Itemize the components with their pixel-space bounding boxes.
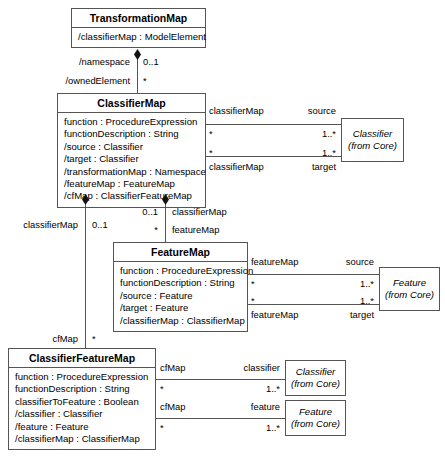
class-feature-core-bottom[interactable]: Feature (from Core) <box>285 400 346 436</box>
class-origin-feature-core-mid: (from Core) <box>385 289 434 301</box>
assoc-label-fm-target-mult-far: 1..* <box>308 295 374 306</box>
assoc-label-ownedelement-role: /ownedElement <box>40 75 130 86</box>
class-name-feature-core-bottom: Feature <box>299 406 332 418</box>
class-origin-classifier-core-bottom: (from Core) <box>291 378 340 390</box>
attribute-row: /classifier : Classifier <box>15 408 150 420</box>
assoc-label-fm-source-role: featureMap <box>251 256 298 267</box>
assoc-label-cm-fm-owner-mult: 0..1 <box>110 206 158 217</box>
class-name-feature-core-mid: Feature <box>393 277 426 289</box>
class-classifier-core-top[interactable]: Classifier (from Core) <box>341 118 404 162</box>
class-feature-core-mid[interactable]: Feature (from Core) <box>379 267 440 311</box>
assoc-label-cf-feature-mult-far: 1..* <box>212 422 280 433</box>
attribute-row: /source : Classifier <box>64 141 200 153</box>
attribute-row: /feature : Feature <box>15 421 150 433</box>
attribute-row: function : ProcedureExpression <box>64 116 200 128</box>
assoc-label-cf-classifier-mult-far: 1..* <box>212 383 280 394</box>
class-classifier-core-bottom[interactable]: Classifier (from Core) <box>285 360 346 396</box>
attribute-row: /target : Feature <box>120 302 242 314</box>
class-attributes-transformation-map: /classifierMap : ModelElement <box>72 28 205 47</box>
assoc-label-fm-source-mult-far: 1..* <box>308 278 374 289</box>
connector-classifiermap-classifier-source <box>206 124 341 125</box>
connector-cfmap-classifier <box>156 379 285 380</box>
assoc-label-cf-classifier-mult-near: * <box>160 383 164 394</box>
assoc-label-fm-target-mult-near: * <box>251 295 255 306</box>
connector-cfmap-feature <box>156 418 285 419</box>
assoc-label-cm-target-end: target <box>270 161 336 172</box>
assoc-label-cm-source-mult-far: 1..* <box>270 128 336 139</box>
class-name-classifier-map: ClassifierMap <box>58 94 205 113</box>
assoc-label-cm-source-end: source <box>270 105 336 116</box>
attribute-row: /classifierMap : ClassifierMap <box>120 315 242 327</box>
assoc-label-cf-classifier-end: classifier <box>212 362 280 373</box>
assoc-label-cm-cf-owner-role: classifierMap <box>5 219 78 230</box>
assoc-label-fm-source-end: source <box>308 256 374 267</box>
attribute-row: functionDescription : String <box>15 383 150 395</box>
assoc-label-cm-cf-child-mult: * <box>92 333 96 344</box>
assoc-label-fm-target-end: target <box>308 309 374 320</box>
attribute-row: classifierToFeature : Boolean <box>15 396 150 408</box>
assoc-label-cm-cf-owner-mult: 0..1 <box>92 219 108 230</box>
attribute-row: /featureMap : FeatureMap <box>64 178 200 190</box>
class-feature-map[interactable]: FeatureMap function : ProcedureExpressio… <box>113 242 248 332</box>
assoc-label-cm-cf-child-role: cfMap <box>5 333 78 344</box>
assoc-label-cm-source-role: classifierMap <box>209 105 264 116</box>
attribute-row: /classifierMap : ModelElement <box>78 31 200 43</box>
attribute-row: functionDescription : String <box>120 277 242 289</box>
assoc-label-cf-feature-role: cfMap <box>160 401 186 412</box>
assoc-label-cm-target-mult-far: 1..* <box>270 147 336 158</box>
assoc-label-fm-target-role: featureMap <box>251 309 298 320</box>
class-classifier-feature-map[interactable]: ClassifierFeatureMap function : Procedur… <box>8 348 156 450</box>
class-attributes-classifier-feature-map: function : ProcedureExpression functionD… <box>9 368 155 449</box>
class-origin-feature-core-bottom: (from Core) <box>291 418 340 430</box>
attribute-row: /transformationMap : Namespace <box>64 166 200 178</box>
class-name-classifier-feature-map: ClassifierFeatureMap <box>9 349 155 368</box>
assoc-label-cm-target-mult-near: * <box>209 147 213 158</box>
assoc-label-fm-source-mult-near: * <box>251 278 255 289</box>
class-origin-classifier-core-top: (from Core) <box>348 140 397 152</box>
attribute-row: function : ProcedureExpression <box>120 265 242 277</box>
attribute-row: functionDescription : String <box>64 128 200 140</box>
class-name-feature-map: FeatureMap <box>114 243 247 262</box>
assoc-label-cm-fm-child-mult: * <box>110 224 158 235</box>
uml-class-diagram: TransformationMap /classifierMap : Model… <box>0 0 445 456</box>
assoc-label-cm-source-mult-near: * <box>209 128 213 139</box>
connector-classifiermap-classifierfeaturemap <box>85 196 86 348</box>
assoc-label-ownedelement-multiplicity: * <box>143 75 147 86</box>
class-attributes-feature-map: function : ProcedureExpression functionD… <box>114 262 247 331</box>
class-transformation-map[interactable]: TransformationMap /classifierMap : Model… <box>71 8 206 48</box>
class-attributes-classifier-map: function : ProcedureExpression functionD… <box>58 113 205 207</box>
assoc-label-cf-feature-mult-near: * <box>160 422 164 433</box>
assoc-label-namespace-role: /namespace <box>40 56 130 67</box>
class-name-classifier-core-top: Classifier <box>353 128 392 140</box>
class-name-transformation-map: TransformationMap <box>72 9 205 28</box>
assoc-label-namespace-multiplicity: 0..1 <box>143 56 159 67</box>
assoc-label-cf-classifier-role: cfMap <box>160 362 186 373</box>
class-name-classifier-core-bottom: Classifier <box>296 366 335 378</box>
assoc-label-cm-fm-owner-role: classifierMap <box>172 206 227 217</box>
assoc-label-cf-feature-end: feature <box>212 401 280 412</box>
class-classifier-map[interactable]: ClassifierMap function : ProcedureExpres… <box>57 93 206 208</box>
attribute-row: function : ProcedureExpression <box>15 371 150 383</box>
attribute-row: /source : Feature <box>120 290 242 302</box>
assoc-label-cm-target-role: classifierMap <box>209 161 264 172</box>
attribute-row: /target : Classifier <box>64 153 200 165</box>
composition-diamond-transformationmap <box>134 49 141 60</box>
assoc-label-cm-fm-child-role: featureMap <box>172 224 219 235</box>
connector-featuremap-feature-source <box>248 274 379 275</box>
attribute-row: /classifierMap : ClassifierMap <box>15 433 150 445</box>
